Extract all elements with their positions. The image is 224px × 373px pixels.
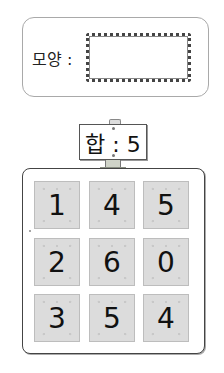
tile-number: 4 xyxy=(103,189,121,222)
tile-number: 4 xyxy=(157,302,175,335)
tile-number: 5 xyxy=(157,189,175,222)
tile-number: 2 xyxy=(48,246,66,279)
number-tile[interactable]: 1 xyxy=(34,181,80,229)
number-tile[interactable]: 5 xyxy=(89,294,135,342)
number-tile[interactable]: 2 xyxy=(34,238,80,286)
tile-number: 0 xyxy=(157,246,175,279)
sum-sign: 합 : 5 xyxy=(79,124,147,160)
sign-nail-icon xyxy=(112,127,115,130)
sign-nail-icon xyxy=(112,154,115,157)
number-tile[interactable]: 6 xyxy=(89,238,135,286)
number-tile[interactable]: 3 xyxy=(34,294,80,342)
shape-answer-frame[interactable] xyxy=(86,33,191,82)
number-tile[interactable]: 5 xyxy=(143,181,189,229)
number-tile[interactable]: 4 xyxy=(143,294,189,342)
tile-number: 6 xyxy=(103,246,121,279)
tile-number: 1 xyxy=(48,189,66,222)
shape-label: 모양 : xyxy=(32,46,72,70)
tile-number: 5 xyxy=(103,302,121,335)
number-tile[interactable]: 4 xyxy=(89,181,135,229)
board-mark xyxy=(29,230,31,232)
tile-number: 3 xyxy=(48,302,66,335)
number-tile[interactable]: 0 xyxy=(143,238,189,286)
